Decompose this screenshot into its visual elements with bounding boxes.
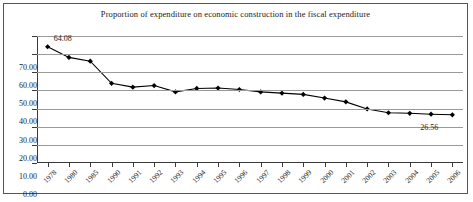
x-tick-label: 1999: [292, 168, 314, 190]
x-tick-label: 1980: [57, 168, 79, 190]
y-tick-label: 50.00: [3, 99, 37, 108]
x-tick-label: 1993: [164, 168, 186, 190]
y-tick-mark: [32, 127, 37, 128]
data-point-marker[interactable]: [45, 44, 50, 49]
y-tick-mark: [32, 36, 37, 37]
chart-frame: Proportion of expenditure on economic co…: [3, 3, 468, 194]
y-tick-mark: [32, 90, 37, 91]
x-tick-label: 2005: [419, 168, 441, 190]
x-tick-label: 1992: [143, 168, 165, 190]
gridline: [37, 109, 463, 110]
data-point-marker[interactable]: [130, 85, 135, 90]
y-tick-mark: [32, 145, 37, 146]
x-axis-labels: 1978198019851990199119921993199419951996…: [37, 164, 463, 202]
x-tick-label: 1990: [100, 168, 122, 190]
data-point-marker[interactable]: [301, 92, 306, 97]
x-tick-label: 1995: [206, 168, 228, 190]
series-polyline: [48, 47, 453, 115]
data-point-marker[interactable]: [450, 112, 455, 117]
gridline: [37, 36, 463, 37]
plot-area: 64.0826.56: [37, 36, 463, 163]
gridline: [37, 145, 463, 146]
x-tick-label: 1985: [79, 168, 101, 190]
y-tick-label: 60.00: [3, 81, 37, 90]
y-tick-label: 30.00: [3, 136, 37, 145]
y-tick-label: 70.00: [3, 63, 37, 72]
data-point-marker[interactable]: [66, 55, 71, 60]
data-point-marker[interactable]: [428, 112, 433, 117]
x-tick-label: 2004: [398, 168, 420, 190]
y-tick-mark: [32, 109, 37, 110]
x-tick-label: 1994: [185, 168, 207, 190]
gridline: [37, 127, 463, 128]
x-tick-label: 2006: [441, 168, 463, 190]
x-tick-label: 1998: [270, 168, 292, 190]
data-point-marker[interactable]: [386, 110, 391, 115]
y-tick-label: 10.00: [3, 172, 37, 181]
y-tick-mark: [32, 54, 37, 55]
data-point-marker[interactable]: [152, 83, 157, 88]
gridline: [37, 54, 463, 55]
x-tick-label: 2003: [377, 168, 399, 190]
x-tick-label: 1996: [228, 168, 250, 190]
x-tick-label: 2002: [356, 168, 378, 190]
chart-title: Proportion of expenditure on economic co…: [4, 9, 467, 19]
x-tick-label: 1991: [121, 168, 143, 190]
gridline: [37, 90, 463, 91]
data-point-marker[interactable]: [407, 111, 412, 116]
gridline: [37, 72, 463, 73]
y-tick-label: 0.00: [3, 190, 37, 199]
last-point-label: 26.56: [420, 123, 438, 132]
x-tick-label: 1978: [36, 168, 58, 190]
y-tick-label: 20.00: [3, 154, 37, 163]
x-tick-label: 1997: [249, 168, 271, 190]
data-point-marker[interactable]: [322, 95, 327, 100]
y-tick-mark: [32, 72, 37, 73]
data-point-marker[interactable]: [343, 99, 348, 104]
first-point-label: 64.08: [54, 34, 72, 43]
x-tick-label: 2001: [334, 168, 356, 190]
y-tick-label: 40.00: [3, 117, 37, 126]
x-tick-label: 2000: [313, 168, 335, 190]
